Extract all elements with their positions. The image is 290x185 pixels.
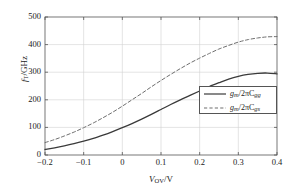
- legend: gm/2πCgg gm/2πCgs: [199, 86, 277, 114]
- y-tick-label: 300: [8, 66, 41, 76]
- x-tick-label: −0.1: [67, 157, 101, 167]
- x-axis-label-unit: /V: [164, 174, 173, 184]
- legend-entry-cgg: gm/2πCgg: [200, 87, 276, 101]
- x-axis-label: VOV/V: [45, 168, 277, 185]
- x-tick-label: 0.2: [183, 157, 217, 167]
- y-axis-label-var: f: [19, 79, 29, 82]
- x-axis-label-sub: OV: [155, 177, 164, 184]
- legend-label-cgg: gm/2πCgg: [230, 89, 261, 98]
- legend-label-cgs: gm/2πCgs: [230, 103, 260, 112]
- y-tick-label: 500: [8, 11, 41, 21]
- legend-line-dashed-icon: [203, 103, 227, 113]
- y-tick-label: 400: [8, 39, 41, 49]
- x-tick-label: 0.4: [260, 157, 290, 167]
- x-tick-label: −0.2: [28, 157, 62, 167]
- legend-entry-cgs: gm/2πCgs: [200, 101, 276, 115]
- y-tick-label: 100: [8, 121, 41, 131]
- y-tick-label: 200: [8, 94, 41, 104]
- x-tick-label: 0.3: [221, 157, 255, 167]
- chart-figure: fT/GHz VOV/V 0100200300400500 −0.2−0.100…: [0, 0, 290, 185]
- x-tick-label: 0: [105, 157, 139, 167]
- legend-line-solid-icon: [203, 89, 227, 99]
- x-tick-label: 0.1: [144, 157, 178, 167]
